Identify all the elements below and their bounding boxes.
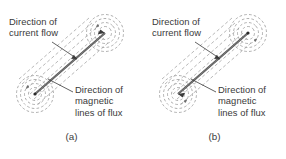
magnetic-flux-label-b: Direction of magnetic lines of flux [218,84,266,118]
panel-a: Direction of current flow Direction of m… [0,0,143,159]
leader-line-flux-a [48,79,73,92]
current-flow-label-a: Direction of current flow [9,16,58,39]
conductor-end-dot-a [33,92,36,95]
current-flow-label-b: Direction of current flow [152,16,201,39]
panel-b: Direction of current flow Direction of m… [143,0,286,159]
panel-caption-b: (b) [143,131,286,142]
leader-line-flux-b [191,79,216,92]
magnetic-flux-figure: Direction of current flow Direction of m… [0,0,286,159]
leader-line-current-a [52,42,77,59]
leader-line-current-b [195,42,220,59]
magnetic-flux-label-a: Direction of magnetic lines of flux [75,84,123,118]
conductor-end-dot-b [246,31,249,34]
panel-caption-a: (a) [0,131,143,142]
